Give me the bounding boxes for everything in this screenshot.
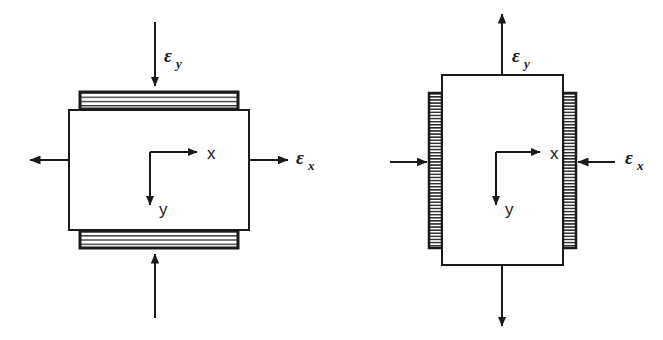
epsilon-x-label: ε x — [625, 147, 644, 173]
strain-elements-diagram: x y ε y ε x — [0, 0, 663, 340]
epsilon-y-subscript: y — [522, 56, 530, 71]
epsilon-y-subscript: y — [174, 56, 182, 71]
x-axis-label: x — [550, 144, 559, 163]
epsilon-y-symbol: ε — [164, 45, 172, 66]
top-hatched-band — [80, 92, 238, 109]
epsilon-x-subscript: x — [307, 158, 315, 173]
epsilon-y-symbol: ε — [512, 45, 520, 66]
left-strain-element: x y ε y ε x — [30, 22, 315, 318]
epsilon-x-symbol: ε — [625, 147, 633, 168]
y-axis-label: y — [159, 200, 168, 219]
bottom-hatched-band — [80, 231, 238, 248]
epsilon-x-symbol: ε — [296, 147, 304, 168]
epsilon-x-subscript: x — [636, 158, 644, 173]
y-axis-label: y — [505, 200, 514, 219]
figure-canvas: x y ε y ε x — [0, 0, 663, 340]
epsilon-x-label: ε x — [296, 147, 315, 173]
left-hatched-band — [429, 93, 442, 248]
element-rectangle — [442, 75, 563, 265]
epsilon-y-label: ε y — [164, 45, 182, 71]
epsilon-y-label: ε y — [512, 45, 530, 71]
x-axis-label: x — [207, 144, 216, 163]
right-strain-element: x y ε y ε x — [390, 14, 644, 326]
right-hatched-band — [563, 93, 576, 248]
